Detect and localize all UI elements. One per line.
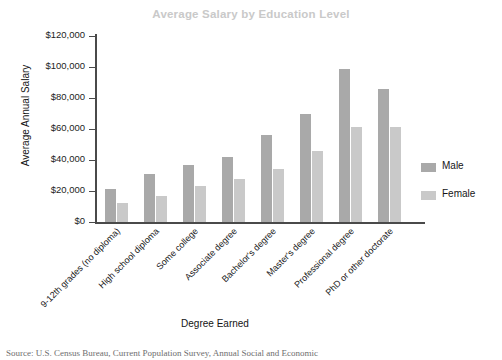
bar-group <box>105 36 129 222</box>
bar-female[interactable] <box>195 186 207 222</box>
y-axis-tick-label: $60,000 <box>51 122 85 133</box>
x-axis-title: Degree Earned <box>0 318 430 329</box>
legend-label-female: Female <box>442 188 475 199</box>
plot-area <box>96 36 408 222</box>
bar-group <box>378 36 402 222</box>
y-axis-tick-label: $120,000 <box>45 29 85 40</box>
chart-figure: Average Salary by Education Level Averag… <box>0 0 502 360</box>
y-axis-tick-mark <box>89 67 96 68</box>
y-axis-tick-mark <box>89 222 96 223</box>
legend-item-male[interactable]: Male <box>421 160 499 188</box>
bar-group <box>300 36 324 222</box>
bar-male[interactable] <box>261 135 273 222</box>
y-axis-tick-label: $80,000 <box>51 91 85 102</box>
source-note: Source: U.S. Census Bureau, Current Popu… <box>6 348 502 358</box>
legend-swatch-female <box>421 191 436 200</box>
bar-male[interactable] <box>144 174 156 222</box>
y-axis-tick-label: $0 <box>74 215 85 226</box>
bar-group <box>339 36 363 222</box>
y-axis-tick-mark <box>89 98 96 99</box>
chart-title: Average Salary by Education Level <box>0 8 502 20</box>
y-axis-tick-label: $40,000 <box>51 153 85 164</box>
y-axis-tick-mark <box>89 160 96 161</box>
bar-male[interactable] <box>183 165 195 222</box>
bar-group <box>144 36 168 222</box>
x-axis-label: 9-12th grades (no diploma) <box>38 226 121 309</box>
chart-legend: MaleFemale <box>421 160 499 216</box>
x-axis-line <box>95 222 425 224</box>
y-axis-title: Average Annual Salary <box>20 36 31 196</box>
bar-male[interactable] <box>300 114 312 223</box>
bar-female[interactable] <box>351 127 363 222</box>
bar-male[interactable] <box>339 69 351 222</box>
bar-male[interactable] <box>222 157 234 222</box>
bar-female[interactable] <box>273 169 285 222</box>
legend-item-female[interactable]: Female <box>421 188 499 216</box>
legend-swatch-male <box>421 163 436 172</box>
bar-female[interactable] <box>117 203 129 222</box>
bar-male[interactable] <box>378 89 390 222</box>
bar-group <box>222 36 246 222</box>
y-axis-tick-mark <box>89 129 96 130</box>
bar-female[interactable] <box>156 196 168 222</box>
y-axis-tick-mark <box>89 191 96 192</box>
bar-group <box>261 36 285 222</box>
x-axis-label: PhD or other doctorate <box>323 226 394 297</box>
bar-female[interactable] <box>390 127 402 222</box>
bar-male[interactable] <box>105 189 117 222</box>
legend-label-male: Male <box>442 160 464 171</box>
y-axis-tick-mark <box>89 36 96 37</box>
bar-group <box>183 36 207 222</box>
bar-female[interactable] <box>312 151 324 222</box>
bar-female[interactable] <box>234 179 246 222</box>
y-axis-tick-label: $20,000 <box>51 184 85 195</box>
y-axis-tick-label: $100,000 <box>45 60 85 71</box>
